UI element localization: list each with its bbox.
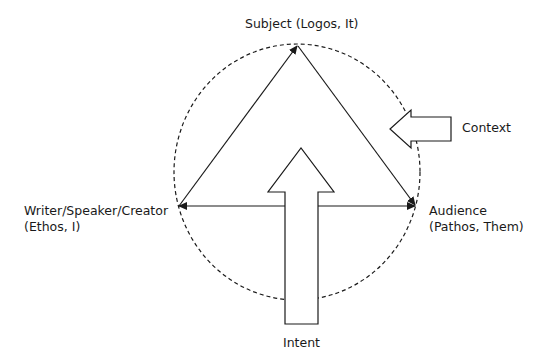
audience-label-line2: (Pathos, Them) [429, 219, 524, 235]
writer-label-line1: Writer/Speaker/Creator [24, 203, 168, 219]
rhetorical-triangle-diagram [0, 0, 544, 364]
node-subject-label: Subject (Logos, It) [245, 16, 358, 32]
intent-label: Intent [283, 335, 320, 351]
audience-label-line1: Audience [429, 203, 524, 219]
subject-label-line1: Subject (Logos, It) [245, 16, 358, 32]
context-label: Context [462, 120, 511, 136]
intent-label-text: Intent [283, 335, 320, 351]
node-writer-label: Writer/Speaker/Creator (Ethos, I) [24, 203, 168, 235]
node-audience-label: Audience (Pathos, Them) [429, 203, 524, 235]
intent-arrow-icon [268, 148, 334, 324]
context-arrow-icon [390, 110, 451, 148]
writer-label-line2: (Ethos, I) [24, 219, 168, 235]
context-label-text: Context [462, 120, 511, 136]
